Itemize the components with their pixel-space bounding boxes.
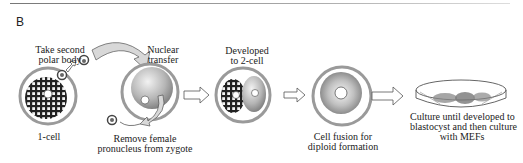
label-line: diploid formation xyxy=(305,142,381,152)
label-take-polar-body: Take second polar body xyxy=(30,45,90,65)
culture-dish-icon xyxy=(416,80,506,107)
label-culture: Culture until developed to blastocyst an… xyxy=(410,112,514,142)
two-cell-embryo xyxy=(216,68,270,122)
label-one-cell: 1-cell xyxy=(34,132,64,142)
label-line: pronucleus from zygote xyxy=(95,144,195,154)
step-arrow-icon xyxy=(184,87,209,103)
one-cell-zygote xyxy=(20,68,76,124)
label-nuclear-transfer: Nuclear transfer xyxy=(138,45,188,65)
label-two-cell: Developed to 2-cell xyxy=(222,46,272,66)
label-cell-fusion: Cell fusion for diploid formation xyxy=(305,132,381,152)
step-arrow-icon xyxy=(284,88,305,102)
label-line: with MEFs xyxy=(410,132,514,142)
label-line: transfer xyxy=(138,55,188,65)
step-arrow-icon xyxy=(372,87,403,105)
recipient-zygote xyxy=(122,64,178,120)
fused-cell xyxy=(313,67,371,125)
label-line: polar body xyxy=(30,55,90,65)
label-remove-pronucleus: Remove female pronucleus from zygote xyxy=(95,134,195,154)
label-line: to 2-cell xyxy=(222,56,272,66)
removed-pronucleus xyxy=(108,116,117,125)
